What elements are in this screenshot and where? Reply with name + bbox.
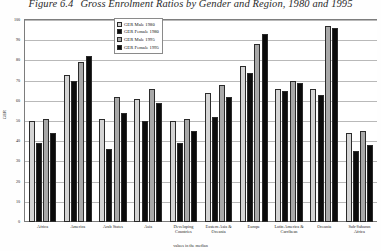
y-axis-tick-label: 70: [16, 78, 20, 82]
bar: [367, 145, 373, 222]
bar: [353, 151, 359, 222]
bar: [332, 28, 338, 222]
legend-item: GER Male 1980: [117, 21, 159, 29]
bar: [29, 121, 35, 222]
x-axis-title: values in the median: [0, 243, 381, 248]
legend-item: GER Female 1980: [117, 28, 159, 36]
bar-groups: [25, 20, 377, 222]
x-axis-tick-label: Asia: [131, 224, 166, 244]
bar: [78, 62, 84, 222]
bar: [318, 95, 324, 222]
y-axis-tick-label: 20: [16, 179, 20, 183]
bar: [205, 93, 211, 222]
bar: [177, 143, 183, 222]
bar: [325, 26, 331, 222]
legend-item: GER Male 1995: [117, 36, 159, 44]
bar: [290, 81, 296, 222]
bar: [254, 44, 260, 222]
bar: [297, 83, 303, 222]
bar: [247, 73, 253, 222]
bar: [149, 89, 155, 222]
bar-group: [201, 20, 236, 222]
figure-title-text: Gross Enrolment Ratios by Gender and Reg…: [80, 0, 352, 9]
x-axis-tick-label: Europe: [236, 224, 271, 244]
bar: [184, 119, 190, 222]
legend-item-label: GER Male 1995: [124, 37, 155, 42]
legend-item: GER Female 1995: [117, 43, 159, 51]
legend-swatch-icon: [117, 22, 122, 27]
bar-group: [307, 20, 342, 222]
figure-number: Figure 6.4: [28, 0, 73, 9]
bar-group: [236, 20, 271, 222]
x-axis-tick-label: Eastern Asia & Oceania: [201, 224, 236, 244]
y-axis-title: GER: [2, 102, 7, 128]
x-axis-tick-label: Developing Countries: [166, 224, 201, 244]
bar-group: [166, 20, 201, 222]
bar: [43, 119, 49, 222]
y-axis-tick-label: 100: [14, 18, 20, 22]
bar: [360, 131, 366, 222]
bar: [134, 99, 140, 222]
figure-page: Figure 6.4Gross Enrolment Ratios by Gend…: [0, 0, 381, 251]
x-axis-tick-label: Latin America & Carribean: [271, 224, 306, 244]
y-axis-tick-label: 40: [16, 139, 20, 143]
x-axis-tick-label: Sub-Saharan Africa: [342, 224, 377, 244]
legend-item-label: GER Female 1980: [124, 29, 159, 34]
y-axis-tick-label: 0: [18, 220, 20, 224]
bar: [226, 97, 232, 222]
legend: GER Male 1980GER Female 1980GER Male 199…: [114, 18, 163, 54]
bar: [50, 133, 56, 222]
bar: [121, 113, 127, 222]
bar-group: [25, 20, 60, 222]
y-axis-tick-label: 10: [16, 200, 20, 204]
bar: [346, 133, 352, 222]
y-axis-tick-label: 80: [16, 58, 20, 62]
bar: [212, 117, 218, 222]
bar: [310, 89, 316, 222]
y-axis-tick-label: 30: [16, 159, 20, 163]
bar: [170, 121, 176, 222]
legend-swatch-icon: [117, 29, 122, 34]
y-axis-tick-label: 50: [16, 119, 20, 123]
bar: [191, 131, 197, 222]
x-axis-tick-label: America: [60, 224, 95, 244]
bar: [106, 149, 112, 222]
x-axis-tick-label: Africa: [25, 224, 60, 244]
bar: [86, 56, 92, 222]
bar: [156, 103, 162, 222]
bar: [240, 66, 246, 222]
bar: [275, 89, 281, 222]
x-axis-category-labels: AfricaAmericaArab StatesAsiaDeveloping C…: [25, 224, 377, 244]
bar-group: [271, 20, 306, 222]
bar: [71, 81, 77, 222]
y-axis-tick-label: 90: [16, 38, 20, 42]
bar: [262, 34, 268, 222]
bar-group: [342, 20, 377, 222]
x-axis-tick-label: Arab States: [95, 224, 130, 244]
legend-swatch-icon: [117, 37, 122, 42]
legend-item-label: GER Female 1995: [124, 45, 159, 50]
bar: [282, 91, 288, 222]
y-axis-tick-label: 60: [16, 99, 20, 103]
x-axis-tick-label: Oceania: [307, 224, 342, 244]
bar: [219, 85, 225, 222]
bar-group: [60, 20, 95, 222]
figure-title: Figure 6.4Gross Enrolment Ratios by Gend…: [0, 0, 381, 13]
bar: [36, 143, 42, 222]
legend-swatch-icon: [117, 45, 122, 50]
bar: [99, 119, 105, 222]
bar: [64, 75, 70, 222]
legend-item-label: GER Male 1980: [124, 22, 155, 27]
bar: [142, 121, 148, 222]
bar: [114, 97, 120, 222]
